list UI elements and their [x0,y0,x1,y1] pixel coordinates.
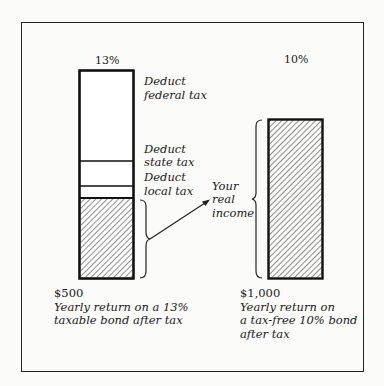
local-tax-label-2: local tax [144,185,193,199]
right-real-income-segment [269,120,323,279]
left-percent-label: 13% [95,54,119,68]
right-amount: $1,000 [240,287,280,301]
right-caption-2: a tax-free 10% bond [240,314,357,328]
left-real-income-segment [81,198,133,278]
left-bar [80,71,134,279]
federal-tax-label-2: federal tax [144,89,207,103]
right-percent-label: 10% [284,53,308,67]
right-caption-3: after tax [240,328,290,342]
left-amount: $500 [54,287,83,301]
left-brace [140,200,150,278]
right-bar [269,120,323,279]
right-brace [252,120,262,278]
federal-tax-label-1: Deduct [144,75,186,89]
local-tax-label-1: Deduct [144,171,186,185]
arrow-icon [150,200,210,240]
real-income-label-2: real [212,193,235,207]
real-income-label-3: income [212,207,254,221]
left-caption-2: taxable bond after tax [54,314,183,328]
state-tax-label-2: state tax [144,156,194,170]
